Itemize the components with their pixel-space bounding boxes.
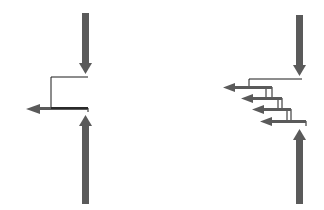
diagram-svg (0, 0, 324, 210)
right-panel (223, 15, 306, 204)
right-down-arrow-icon (293, 15, 306, 76)
right-up-arrow-icon (293, 129, 306, 204)
right-lateral-arrow-3-icon (252, 105, 291, 114)
right-lateral-arrow-1-icon (223, 83, 272, 92)
diagram-canvas (0, 0, 324, 210)
left-connector-line (51, 77, 88, 112)
left-up-arrow-icon (79, 115, 92, 204)
left-panel (26, 13, 92, 204)
right-lateral-arrow-4-icon (260, 117, 306, 126)
right-lateral-arrow-2-icon (241, 94, 282, 103)
left-lateral-arrow-icon (26, 104, 88, 114)
left-down-arrow-icon (79, 13, 92, 74)
